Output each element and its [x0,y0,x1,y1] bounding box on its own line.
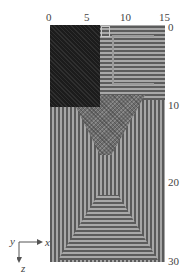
x-tick-0: 0 [46,12,52,23]
triad-x-label: x [45,236,50,248]
concentric-contour [112,35,154,85]
dark-block-region [50,25,100,107]
triad-z-label: z [21,262,25,274]
z-tick-30: 30 [168,256,179,267]
z-tick-20: 20 [168,177,179,188]
triad-y-label: y [10,235,15,247]
x-tick-5: 5 [84,12,90,23]
z-tick-0: 0 [168,22,174,33]
x-tick-10: 10 [120,12,131,23]
z-tick-10: 10 [168,100,179,111]
triad-arrows-icon [17,238,45,264]
marker-box [101,26,110,37]
microstructure-map [50,25,165,262]
